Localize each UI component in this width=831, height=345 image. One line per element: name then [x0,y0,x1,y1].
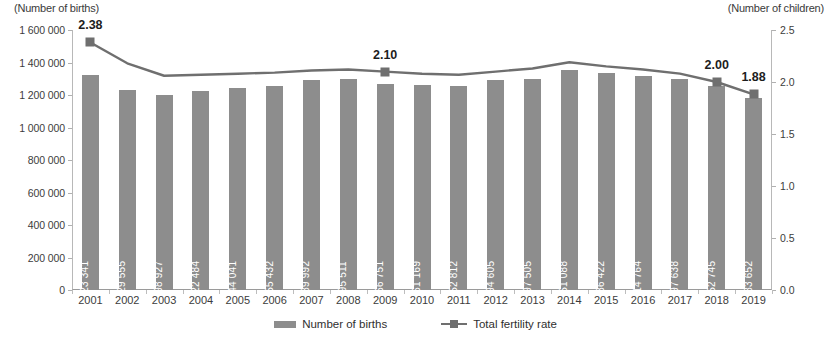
x-axis-label-2016: 2016 [631,294,655,306]
right-axis-tick-mark [772,82,776,83]
fertility-value-label-2009: 2.10 [373,48,397,62]
x-axis-tick-mark [551,290,552,294]
right-axis-tick-mark [772,30,776,31]
line-marker-swatch-icon [441,320,467,329]
x-axis-tick-mark [661,290,662,294]
x-axis-label-2017: 2017 [668,294,692,306]
legend-label-births: Number of births [302,318,387,330]
x-axis-label-2003: 2003 [152,294,176,306]
x-axis-label-2004: 2004 [189,294,213,306]
x-axis-tick-mark [330,290,331,294]
x-axis-tick-mark [477,290,478,294]
x-axis-label-2014: 2014 [557,294,581,306]
x-axis-tick-mark [698,290,699,294]
x-axis-label-2012: 2012 [483,294,507,306]
left-axis-tick-mark [68,225,72,226]
fertility-births-chart: (Number of births) (Number of children) … [0,0,831,345]
left-axis-tick-mark [68,193,72,194]
right-axis-tick-label: 2.0 [780,76,795,88]
x-axis-tick-mark [404,290,405,294]
fertility-marker-2019[interactable] [749,90,758,99]
x-axis-tick-mark [146,290,147,294]
x-axis-label-2008: 2008 [336,294,360,306]
left-axis-tick-label: 1 200 000 [19,89,65,101]
left-axis-tick-label: 800 000 [28,154,65,166]
fertility-marker-2009[interactable] [381,67,390,76]
x-axis-tick-mark [219,290,220,294]
x-axis-tick-mark [625,290,626,294]
right-axis-tick-label: 2.5 [780,24,795,36]
left-axis-tick-mark [68,63,72,64]
x-axis-tick-mark [183,290,184,294]
right-axis-tick-label: 1.0 [780,180,795,192]
x-axis-tick-mark [256,290,257,294]
fertility-value-label-2018: 2.00 [705,58,729,72]
legend-item-fertility: Total fertility rate [441,318,557,330]
left-axis-tick-label: 0 [59,284,65,296]
x-axis-tick-mark [109,290,110,294]
legend-item-births: Number of births [274,318,387,330]
bar-swatch-icon [274,321,296,328]
left-axis-tick-mark [68,258,72,259]
fertility-value-label-2001: 2.38 [78,18,102,32]
left-axis-tick-label: 600 000 [28,187,65,199]
x-axis-label-2005: 2005 [226,294,250,306]
fertility-marker-2001[interactable] [86,38,95,47]
plot-area: 1 323 3411 229 5551 198 9271 222 4841 24… [72,30,772,290]
x-axis-tick-mark [588,290,589,294]
right-axis-tick-mark [772,186,776,187]
left-axis-caption: (Number of births) [14,2,99,14]
left-axis-tick-label: 400 000 [28,219,65,231]
x-axis-tick-mark [440,290,441,294]
fertility-marker-2018[interactable] [712,78,721,87]
fertility-line-layer: 2.382.102.001.88 [72,30,772,290]
x-axis-label-2018: 2018 [704,294,728,306]
x-axis-tick-mark [772,290,773,294]
x-axis-label-2006: 2006 [262,294,286,306]
right-axis-caption: (Number of children) [728,2,824,14]
x-axis-label-2009: 2009 [373,294,397,306]
x-axis-label-2001: 2001 [78,294,102,306]
x-axis-tick-mark [367,290,368,294]
right-axis-tick-mark [772,134,776,135]
x-axis-label-2019: 2019 [741,294,765,306]
x-axis-tick-mark [514,290,515,294]
left-axis-tick-mark [68,30,72,31]
left-axis-tick-mark [68,95,72,96]
x-axis-label-2015: 2015 [594,294,618,306]
left-axis-tick-label: 1 400 000 [19,57,65,69]
x-axis-tick-mark [293,290,294,294]
fertility-rate-line [72,30,772,290]
right-axis-tick-mark [772,238,776,239]
x-axis-label-2011: 2011 [447,294,471,306]
right-axis-tick-label: 0.5 [780,232,795,244]
chart-legend: Number of births Total fertility rate [0,318,831,330]
left-axis-tick-label: 1 000 000 [19,122,65,134]
left-axis-tick-label: 200 000 [28,252,65,264]
left-axis-tick-mark [68,160,72,161]
x-axis-tick-mark [72,290,73,294]
x-axis-label-2013: 2013 [520,294,544,306]
x-axis-label-2002: 2002 [115,294,139,306]
right-axis-tick-label: 0.0 [780,284,795,296]
right-axis-tick-label: 1.5 [780,128,795,140]
legend-label-fertility: Total fertility rate [473,318,557,330]
x-axis-label-2007: 2007 [299,294,323,306]
fertility-value-label-2019: 1.88 [741,70,765,84]
left-axis-tick-mark [68,128,72,129]
x-axis-label-2010: 2010 [410,294,434,306]
x-axis-tick-mark [735,290,736,294]
left-axis-tick-label: 1 600 000 [19,24,65,36]
